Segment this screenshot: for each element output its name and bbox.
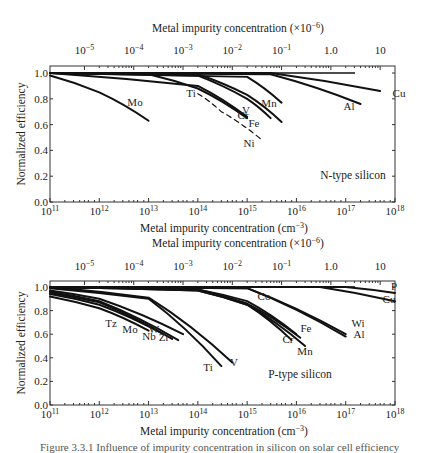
series-label-ni: Ni — [244, 137, 255, 149]
y-axis-title: Normalized efficiency — [15, 82, 28, 185]
x-tick-label: 1017 — [336, 204, 355, 217]
x2-tick-label: 1.0 — [324, 44, 338, 56]
series-label-al: Al — [354, 328, 365, 340]
series-label-cu: Cu — [393, 87, 406, 99]
x2-tick-label: 10−5 — [75, 259, 94, 272]
x-tick-label: 1015 — [238, 204, 257, 217]
x2-tick-label: 10 — [375, 44, 387, 56]
p-type-label: P-type silicon — [268, 368, 332, 381]
series-label-zr: Zr — [159, 331, 170, 343]
y-tick-label: 0.6 — [34, 328, 48, 340]
x2-axis-title: Metal impurity concentration (×10−6) — [152, 236, 324, 250]
x2-tick-label: 10−2 — [223, 43, 242, 56]
x-tick-label: 1017 — [336, 407, 355, 420]
series-label-ti: Ti — [203, 361, 212, 373]
x2-tick-label: 10−4 — [124, 259, 143, 272]
n-type-chart: Metal impurity concentration (×10−6)Meta… — [15, 21, 395, 235]
series-label-fe: Fe — [301, 322, 312, 334]
y-axis-title: Normalized efficiency — [15, 291, 28, 394]
x2-tick-label: 10−2 — [223, 259, 242, 272]
y-tick-label: 1.0 — [34, 67, 48, 79]
x-tick-label: 1012 — [90, 407, 109, 420]
y-tick-label: 0.8 — [34, 305, 48, 317]
series-label-mn: Mn — [261, 97, 277, 109]
series-label-al: Al — [344, 100, 355, 112]
x2-tick-label: 10−4 — [124, 43, 143, 56]
x-tick-label: 1011 — [41, 204, 60, 217]
x2-tick-label: 10−1 — [272, 43, 291, 56]
x2-tick-label: 1.0 — [324, 260, 338, 272]
series-label-cr: Cr — [238, 109, 249, 121]
x-tick-label: 1013 — [139, 204, 158, 217]
series-label-ti: Ti — [186, 87, 195, 99]
n-type-label: N-type silicon — [320, 169, 386, 182]
x-tick-label: 1018 — [386, 407, 405, 420]
series-ti-line — [50, 73, 247, 118]
series-label-mo: Mo — [127, 96, 143, 108]
series-label-mn: Mn — [297, 345, 313, 357]
y-tick-label: 0.4 — [34, 352, 48, 364]
x2-tick-label: 10−3 — [173, 259, 192, 272]
x-tick-label: 1018 — [386, 204, 405, 217]
series-v-line — [50, 73, 247, 117]
y-tick-label: 0.2 — [34, 170, 48, 182]
x-tick-label: 1016 — [287, 407, 306, 420]
x-tick-label: 1016 — [287, 204, 306, 217]
y-tick-label: 0.2 — [34, 375, 48, 387]
series-label-mo: Mo — [122, 323, 138, 335]
x2-tick-label: 10−3 — [173, 43, 192, 56]
x2-tick-label: 10 — [375, 260, 387, 272]
y-tick-label: 0.6 — [34, 119, 48, 131]
x-tick-label: 1014 — [188, 204, 207, 217]
x-axis-title: Metal impurity concentration (cm−3) — [140, 221, 308, 235]
y-tick-label: 0.8 — [34, 93, 48, 105]
x-tick-label: 1013 — [139, 407, 158, 420]
x2-tick-label: 10−1 — [272, 259, 291, 272]
series-label-fe: Fe — [249, 117, 260, 129]
series-label-cu: Cu — [383, 293, 396, 305]
x-axis-title: Metal impurity concentration (cm−3) — [140, 424, 308, 438]
figure-caption: Figure 3.3.1 Influence of impurity conce… — [40, 441, 420, 453]
x-tick-label: 1015 — [238, 407, 257, 420]
series-label-co: Co — [258, 290, 271, 302]
series-label-cr: Cr — [283, 333, 294, 345]
x-tick-label: 1012 — [90, 204, 109, 217]
y-tick-label: 0.4 — [34, 144, 48, 156]
x-tick-label: 1011 — [41, 407, 60, 420]
y-tick-label: 1.0 — [34, 281, 48, 293]
series-label-tz: Tz — [105, 317, 117, 329]
x-tick-label: 1014 — [188, 407, 207, 420]
x2-axis-title: Metal impurity concentration (×10−6) — [152, 21, 324, 35]
series-label-v: V — [230, 356, 238, 368]
x2-tick-label: 10−5 — [75, 43, 94, 56]
series-label-w: W — [149, 323, 160, 335]
series-label-p: P — [391, 280, 397, 292]
